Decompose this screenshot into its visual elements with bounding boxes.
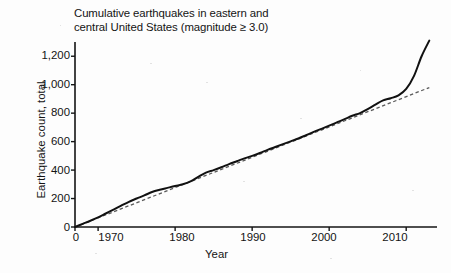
- chart-figure: Cumulative earthquakes in eastern and ce…: [0, 0, 451, 273]
- x-tick-labels: 0 1970 1980 1990 2000 2010: [0, 0, 451, 273]
- x-tick-label: 1980: [157, 231, 207, 243]
- x-tick-label: 1970: [86, 231, 136, 243]
- x-tick-label: 1990: [228, 231, 278, 243]
- x-tick-label: 2000: [299, 231, 349, 243]
- x-tick-label: 2010: [370, 231, 420, 243]
